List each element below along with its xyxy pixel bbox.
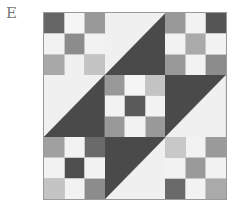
patch-square [65,13,85,33]
patch-square [206,34,226,54]
cell-middle-left [44,75,105,137]
patch-square [105,96,125,116]
patch-square [125,117,145,137]
half-square-triangle [165,75,226,137]
patch-square [44,179,64,199]
patch-square [85,179,105,199]
patch-square [125,96,145,116]
cell-bottom-middle [105,137,166,199]
patch-square [206,13,226,33]
half-square-triangle [105,137,166,199]
patch-square [85,158,105,178]
patch-square [85,137,105,157]
patch-square [44,137,64,157]
cell-bottom-right [165,137,226,199]
patch-square [165,55,185,75]
patch-square [44,34,64,54]
patch-square [125,75,145,95]
patch-square [146,96,166,116]
half-square-triangle [44,75,105,137]
patch-square [44,13,64,33]
patch-square [165,34,185,54]
quilt-block [44,13,226,199]
patch-square [85,55,105,75]
patch-square [146,75,166,95]
patch-square [165,158,185,178]
patch-square [44,55,64,75]
patch-square [65,179,85,199]
patch-square [65,137,85,157]
cell-middle-right [165,75,226,137]
patch-square [105,75,125,95]
cell-top-middle [105,13,166,75]
cell-center [105,75,166,137]
figure-label: E [6,6,17,21]
patch-square [165,137,185,157]
patch-square [44,158,64,178]
patch-square [186,137,206,157]
patch-square [206,158,226,178]
patch-square [206,55,226,75]
patch-square [186,179,206,199]
patch-square [65,158,85,178]
patch-square [65,55,85,75]
patch-square [85,34,105,54]
cell-top-right [165,13,226,75]
patch-square [186,158,206,178]
patch-square [186,13,206,33]
patch-square [186,55,206,75]
patch-square [165,179,185,199]
patch-square [206,179,226,199]
half-square-triangle [105,13,166,75]
patch-square [146,117,166,137]
patch-square [206,137,226,157]
cell-bottom-left [44,137,105,199]
patch-square [85,13,105,33]
patch-square [165,13,185,33]
patch-square [65,34,85,54]
cell-top-left [44,13,105,75]
patch-square [105,117,125,137]
patch-square [186,34,206,54]
